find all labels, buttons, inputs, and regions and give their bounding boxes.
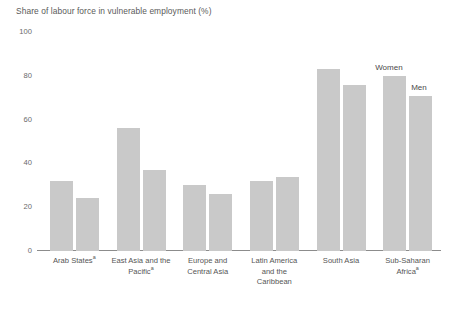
bar-women-4 — [317, 69, 340, 251]
bar-men-5 — [409, 96, 432, 251]
y-tick-100: 100 — [2, 28, 32, 36]
y-tick-40: 40 — [2, 159, 32, 167]
bar-men-0 — [76, 198, 99, 251]
series-annotation-men: Men — [411, 83, 427, 92]
bar-men-3 — [276, 177, 299, 251]
category-label-5: Sub-SaharanAfricaa — [367, 256, 448, 277]
bar-men-1 — [143, 170, 166, 251]
bar-women-0 — [50, 181, 73, 251]
bar-women-2 — [183, 185, 206, 251]
bar-men-4 — [343, 85, 366, 251]
y-tick-60: 60 — [2, 116, 32, 124]
series-annotation-women: Women — [375, 63, 402, 72]
bar-women-5 — [383, 76, 406, 251]
y-tick-80: 80 — [2, 72, 32, 80]
y-tick-0: 0 — [2, 247, 32, 255]
y-tick-20: 20 — [2, 203, 32, 211]
bar-men-2 — [209, 194, 232, 251]
chart-title: Share of labour force in vulnerable empl… — [16, 6, 212, 16]
bar-women-3 — [250, 181, 273, 251]
bar-women-1 — [117, 128, 140, 251]
vulnerable-employment-bar-chart: Share of labour force in vulnerable empl… — [0, 0, 449, 315]
